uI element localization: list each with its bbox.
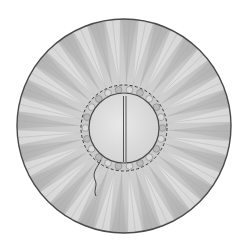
yoyo-fabric-illustration xyxy=(0,0,245,252)
gathered-center xyxy=(81,85,167,171)
illustration-canvas: Gathered fabric circle (yo-yo) with runn… xyxy=(0,0,245,252)
